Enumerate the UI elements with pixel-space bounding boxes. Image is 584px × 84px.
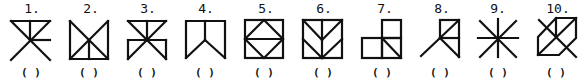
figure-9-answer-blank[interactable]: ( ) <box>488 66 508 79</box>
figure-4-answer-blank[interactable]: ( ) <box>195 66 215 79</box>
figure-7-answer-blank[interactable]: ( ) <box>372 66 392 79</box>
figure-7-number: 7. <box>377 1 393 16</box>
figure-10-answer-blank[interactable]: ( ) <box>546 66 566 79</box>
figure-6-drawing <box>303 20 342 58</box>
figure-3-number: 3. <box>140 1 156 16</box>
figure-9-number: 9. <box>490 1 506 16</box>
figure-5-number: 5. <box>258 1 274 16</box>
figure-8-answer-blank[interactable]: ( ) <box>430 66 450 79</box>
figure-10-number: 10. <box>546 1 569 16</box>
figure-8-drawing <box>421 20 459 57</box>
figure-6-answer-blank[interactable]: ( ) <box>313 66 333 79</box>
figure-5-drawing <box>245 20 283 58</box>
figure-7-drawing <box>362 20 401 58</box>
figure-1-answer-blank[interactable]: ( ) <box>21 66 41 79</box>
figure-4-drawing <box>186 21 225 58</box>
figure-5-answer-blank[interactable]: ( ) <box>254 66 274 79</box>
figure-4-number: 4. <box>198 1 214 16</box>
figure-3-drawing <box>128 21 166 59</box>
figure-2-answer-blank[interactable]: ( ) <box>79 66 99 79</box>
figure-3-answer-blank[interactable]: ( ) <box>137 66 157 79</box>
figure-9-drawing <box>478 19 518 57</box>
figure-2-drawing <box>70 21 108 59</box>
figure-1-number: 1. <box>24 1 40 16</box>
figure-1-drawing <box>11 21 50 60</box>
figure-6-number: 6. <box>316 1 332 16</box>
figure-8-number: 8. <box>434 1 450 16</box>
figure-2-number: 2. <box>83 1 99 16</box>
figure-10-drawing <box>538 18 576 57</box>
